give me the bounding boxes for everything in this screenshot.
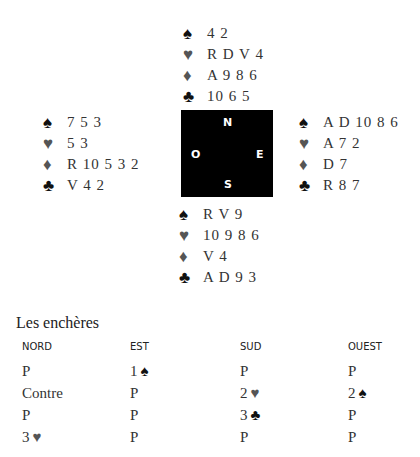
bid-text: P <box>22 407 30 423</box>
bid-text: P <box>240 429 248 445</box>
south-diamonds: V 4 <box>203 248 228 265</box>
west-spades: 7 5 3 <box>67 114 102 131</box>
header-est: EST <box>130 341 149 352</box>
bid-cell: 2♠ <box>348 385 366 402</box>
bid-text: 1 <box>130 363 138 379</box>
west-clubs-row: ♣ V 4 2 <box>43 175 140 196</box>
compass-north-label: N <box>223 116 232 129</box>
east-hearts-row: ♥ A 7 2 <box>299 133 399 154</box>
auction-row: P1♠PP <box>0 361 420 383</box>
auction-table: NORD EST SUD OUEST P1♠PPContreP2♥2♠PP3♣P… <box>0 339 420 449</box>
bid-cell: P <box>348 407 356 424</box>
bid-cell: P <box>240 429 248 446</box>
auction-rows: P1♠PPContreP2♥2♠PP3♣P3♥PPP <box>0 361 420 449</box>
heart-icon: ♥ <box>251 385 260 401</box>
heart-icon: ♥ <box>183 46 207 63</box>
west-diamonds: R 10 5 3 2 <box>67 156 140 173</box>
east-diamonds-row: ♦ D 7 <box>299 154 399 175</box>
spade-icon: ♠ <box>183 25 207 42</box>
north-spades-row: ♠ 4 2 <box>183 23 264 44</box>
spade-icon: ♠ <box>43 114 67 131</box>
bid-text: P <box>348 363 356 379</box>
header-ouest: OUEST <box>348 341 382 352</box>
heart-icon: ♥ <box>43 135 67 152</box>
west-spades-row: ♠ 7 5 3 <box>43 112 140 133</box>
west-hearts-row: ♥ 5 3 <box>43 133 140 154</box>
west-clubs: V 4 2 <box>67 177 105 194</box>
diamond-icon: ♦ <box>179 248 203 265</box>
club-icon: ♣ <box>299 177 323 194</box>
auction-row: 3♥PPP <box>0 427 420 449</box>
north-hearts-row: ♥ R D V 4 <box>183 44 264 65</box>
bid-text: 3 <box>240 407 248 423</box>
bid-text: P <box>130 407 138 423</box>
spade-icon: ♠ <box>179 206 203 223</box>
east-spades-row: ♠ A D 10 8 6 <box>299 112 399 133</box>
north-clubs-row: ♣ 10 6 5 <box>183 86 264 107</box>
bid-cell: P <box>240 363 248 380</box>
bid-cell: P <box>130 385 138 402</box>
bid-cell: P <box>348 363 356 380</box>
south-clubs: A D 9 3 <box>203 269 257 286</box>
compass-south-label: S <box>224 178 232 191</box>
north-spades: 4 2 <box>207 25 229 42</box>
bid-cell: 3♥ <box>22 429 41 446</box>
bid-text: P <box>130 429 138 445</box>
bid-cell: P <box>22 363 30 380</box>
south-clubs-row: ♣ A D 9 3 <box>179 267 260 288</box>
compass-west-label: O <box>191 148 200 161</box>
diamond-icon: ♦ <box>43 156 67 173</box>
south-hearts: 10 9 8 6 <box>203 227 260 244</box>
auction-row: PP3♣P <box>0 405 420 427</box>
south-spades-row: ♠ R V 9 <box>179 204 260 225</box>
bid-text: 2 <box>240 385 248 401</box>
auction-header-row: NORD EST SUD OUEST <box>0 339 420 361</box>
club-icon: ♣ <box>183 88 207 105</box>
compass-table: N O E S <box>181 110 273 197</box>
north-diamonds-row: ♦ A 9 8 6 <box>183 65 264 86</box>
bid-cell: 1♠ <box>130 363 148 380</box>
heart-icon: ♥ <box>33 429 42 445</box>
auction-title: Les enchères <box>16 314 99 332</box>
south-hearts-row: ♥ 10 9 8 6 <box>179 225 260 246</box>
bid-text: P <box>348 407 356 423</box>
auction-row: ContreP2♥2♠ <box>0 383 420 405</box>
bid-cell: Contre <box>22 385 63 402</box>
heart-icon: ♥ <box>179 227 203 244</box>
north-clubs: 10 6 5 <box>207 88 251 105</box>
bid-cell: P <box>22 407 30 424</box>
north-hearts: R D V 4 <box>207 46 264 63</box>
south-spades: R V 9 <box>203 206 243 223</box>
diamond-icon: ♦ <box>183 67 207 84</box>
bid-text: 2 <box>348 385 356 401</box>
bid-text: Contre <box>22 385 63 401</box>
compass-east-label: E <box>256 148 264 161</box>
east-hearts: A 7 2 <box>323 135 361 152</box>
bid-text: P <box>130 385 138 401</box>
west-hand: ♠ 7 5 3 ♥ 5 3 ♦ R 10 5 3 2 ♣ V 4 2 <box>43 112 140 196</box>
club-icon: ♣ <box>179 269 203 286</box>
west-diamonds-row: ♦ R 10 5 3 2 <box>43 154 140 175</box>
bid-text: P <box>22 363 30 379</box>
bid-cell: P <box>348 429 356 446</box>
east-diamonds: D 7 <box>323 156 348 173</box>
bid-cell: 2♥ <box>240 385 259 402</box>
east-clubs: R 8 7 <box>323 177 361 194</box>
spade-icon: ♠ <box>141 363 149 379</box>
bid-cell: P <box>130 407 138 424</box>
club-icon: ♣ <box>43 177 67 194</box>
club-icon: ♣ <box>251 407 261 423</box>
east-spades: A D 10 8 6 <box>323 114 399 131</box>
bid-cell: 3♣ <box>240 407 260 424</box>
spade-icon: ♠ <box>299 114 323 131</box>
east-hand: ♠ A D 10 8 6 ♥ A 7 2 ♦ D 7 ♣ R 8 7 <box>299 112 399 196</box>
header-sud: SUD <box>240 341 261 352</box>
south-diamonds-row: ♦ V 4 <box>179 246 260 267</box>
bid-text: P <box>348 429 356 445</box>
south-hand: ♠ R V 9 ♥ 10 9 8 6 ♦ V 4 ♣ A D 9 3 <box>179 204 260 288</box>
header-nord: NORD <box>22 341 52 352</box>
bid-text: 3 <box>22 429 30 445</box>
spade-icon: ♠ <box>359 385 367 401</box>
bid-text: P <box>240 363 248 379</box>
heart-icon: ♥ <box>299 135 323 152</box>
